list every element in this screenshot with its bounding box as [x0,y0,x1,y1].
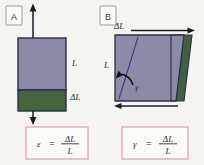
panel-a-formula-equals: = [49,138,55,149]
panel-b-formula-equals: = [146,138,152,149]
sheared-body-parallelogram [115,35,184,101]
panel-b-shear-angle-label: γ [135,82,139,92]
panel-a-formula-box [26,127,88,159]
panel-a-formula-lhs: ε [37,139,41,149]
panel-a-label: A [11,12,17,22]
panel-a-length-label: L [71,58,77,68]
panel-a-delta-length-label: ΔL [69,92,80,102]
panel-a-formula-numerator: ΔL [64,134,75,144]
strain-diagram-figure: A L ΔL ε = ΔL L B [0,0,204,165]
panel-a-formula-denominator: L [66,146,72,156]
panel-b-formula-denominator: L [164,146,170,156]
panel-b-formula-lhs: γ [133,139,137,149]
specimen-body-rect [18,38,66,90]
specimen-elongation-rect [18,90,66,111]
panel-b-formula-box [122,127,188,159]
panel-b-label: B [105,12,111,22]
panel-b-delta-length-label: ΔL [113,21,124,31]
panel-b-formula-numerator: ΔL [162,134,173,144]
panel-b-length-label: L [103,60,109,70]
